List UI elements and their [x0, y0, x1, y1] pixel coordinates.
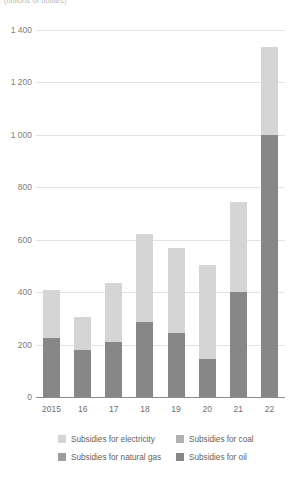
plot-area [36, 30, 285, 397]
gridline [36, 187, 285, 188]
bar-segment [136, 234, 153, 322]
gridline [36, 82, 285, 83]
legend-item: Subsidies for oil [176, 453, 294, 462]
legend-item: Subsidies for natural gas [58, 453, 176, 462]
bar-segment [105, 283, 122, 342]
bar-segment [230, 202, 247, 292]
bar-stack [261, 47, 278, 397]
bar-segment [230, 292, 247, 397]
bar-segment [261, 135, 278, 397]
legend-swatch-icon [58, 453, 66, 461]
bar-segment [74, 317, 91, 350]
bar-segment [43, 290, 60, 338]
legend-label: Subsidies for natural gas [71, 453, 161, 462]
y-tick-label: 0 [0, 392, 32, 402]
gridline [36, 240, 285, 241]
x-axis-line [36, 397, 285, 398]
x-tick-label: 22 [251, 404, 288, 414]
bar-segment [261, 47, 278, 135]
y-tick-label: 1 000 [0, 130, 32, 140]
bar-segment [168, 333, 185, 397]
legend-item: Subsidies for electricity [58, 435, 176, 444]
y-tick-label: 1 400 [0, 25, 32, 35]
bar-stack [136, 234, 153, 397]
bar-segment [105, 342, 122, 397]
chart-units-caption: (billions of dollars) [4, 0, 67, 5]
bar-segment [199, 359, 216, 397]
legend-item: Subsidies for coal [176, 435, 294, 444]
gridline [36, 292, 285, 293]
y-tick-label: 600 [0, 235, 32, 245]
legend-swatch-icon [58, 435, 66, 443]
bar-stack [105, 283, 122, 397]
y-axis-tick-labels: 02004006008001 0001 2001 400 [0, 30, 32, 397]
legend-label: Subsidies for oil [189, 453, 247, 462]
bar-stack [43, 290, 60, 397]
bar-segment [136, 322, 153, 397]
bar-stack [74, 317, 91, 397]
bar-segment [199, 265, 216, 359]
legend-label: Subsidies for coal [189, 435, 254, 444]
bar-segment [43, 338, 60, 397]
gridline [36, 135, 285, 136]
y-tick-label: 800 [0, 182, 32, 192]
legend-swatch-icon [176, 453, 184, 461]
bar-stack [230, 202, 247, 397]
y-tick-label: 400 [0, 287, 32, 297]
chart-figure: (billions of dollars) 02004006008001 000… [0, 0, 302, 479]
chart-legend: Subsidies for electricitySubsidies for c… [58, 430, 298, 466]
bar-segment [168, 248, 185, 333]
legend-swatch-icon [176, 435, 184, 443]
bar-stack [168, 248, 185, 397]
legend-label: Subsidies for electricity [71, 435, 155, 444]
y-tick-label: 1 200 [0, 77, 32, 87]
bar-stack [199, 265, 216, 397]
gridline [36, 30, 285, 31]
y-tick-label: 200 [0, 340, 32, 350]
bar-segment [74, 350, 91, 397]
